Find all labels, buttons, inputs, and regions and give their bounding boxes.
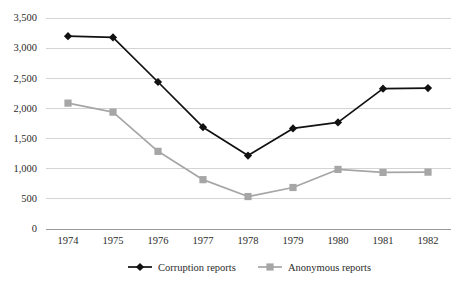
chart-canvas: 05001,0001,5002,0002,5003,0003,500 19741… xyxy=(0,0,465,287)
data-point-marker xyxy=(244,193,251,200)
data-point-marker xyxy=(244,151,252,159)
legend-entry-label: Corruption reports xyxy=(158,262,236,273)
y-axis-tick-label: 500 xyxy=(21,193,37,204)
x-axis-tick-label: 1980 xyxy=(328,235,349,246)
x-axis-tick-label: 1981 xyxy=(373,235,394,246)
y-axis-tick-label: 1,500 xyxy=(13,133,37,144)
y-axis-tick-label: 3,000 xyxy=(13,42,37,53)
data-point-marker xyxy=(64,100,71,107)
series-anonymous-reports xyxy=(64,100,431,201)
x-axis-tick-label: 1974 xyxy=(58,235,80,246)
legend-entry-label: Anonymous reports xyxy=(288,262,371,273)
data-point-marker xyxy=(289,184,296,191)
data-point-marker xyxy=(379,169,386,176)
data-point-marker xyxy=(154,148,161,155)
x-axis-tick-label: 1982 xyxy=(418,235,439,246)
x-axis-tick-label: 1976 xyxy=(148,235,169,246)
data-point-marker xyxy=(424,169,431,176)
y-axis-tick-label: 0 xyxy=(32,223,37,234)
y-axis-tick-label: 2,000 xyxy=(13,103,37,114)
series-line xyxy=(68,36,428,155)
series-line xyxy=(68,103,428,196)
series-corruption-reports xyxy=(64,32,432,160)
x-axis-tick-label: 1977 xyxy=(193,235,214,246)
data-point-marker xyxy=(289,124,297,132)
y-axis-tick-label: 2,500 xyxy=(13,73,37,84)
data-point-marker xyxy=(424,84,432,92)
chart-legend: Corruption reportsAnonymous reports xyxy=(128,262,371,273)
data-point-marker xyxy=(109,109,116,116)
legend-marker xyxy=(136,263,144,271)
data-point-marker xyxy=(334,166,341,173)
y-axis-tick-label: 1,000 xyxy=(13,163,37,174)
x-axis-tick-label: 1979 xyxy=(283,235,304,246)
y-axis-tick-label: 3,500 xyxy=(13,12,37,23)
x-axis-tick-labels: 197419751976197719781979198019811982 xyxy=(58,235,439,246)
x-axis-tick-label: 1978 xyxy=(238,235,259,246)
x-axis-tick-label: 1975 xyxy=(103,235,124,246)
data-point-marker xyxy=(64,32,72,40)
y-axis-tick-labels: 05001,0001,5002,0002,5003,0003,500 xyxy=(13,12,37,234)
line-chart: 05001,0001,5002,0002,5003,0003,500 19741… xyxy=(0,0,465,287)
data-point-marker xyxy=(199,176,206,183)
legend-marker xyxy=(266,263,273,270)
